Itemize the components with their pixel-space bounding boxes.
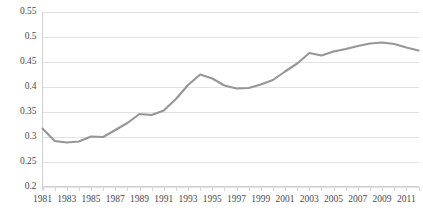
x-tick-label: 1989 [130, 194, 149, 204]
y-tick-label: 0.5 [25, 31, 37, 41]
data-series-line [43, 43, 419, 143]
y-tick-label: 0.3 [25, 131, 37, 141]
x-tick-label: 2007 [348, 194, 367, 204]
x-tick-label: 2009 [373, 194, 392, 204]
y-tick-label: 0.4 [25, 81, 37, 91]
y-tick-label: 0.2 [25, 181, 37, 191]
gridlines [43, 13, 419, 188]
line-chart: 0.20.250.30.350.40.450.50.55 19811983198… [0, 0, 423, 224]
x-tick-label: 2011 [397, 194, 416, 204]
x-tick-label: 2001 [276, 194, 295, 204]
x-tick-label: 1987 [106, 194, 125, 204]
y-tick-label: 0.35 [20, 106, 37, 116]
data-series-group [43, 43, 419, 143]
x-tick-label: 1983 [57, 194, 76, 204]
chart-canvas: 0.20.250.30.350.40.450.50.55 19811983198… [0, 0, 423, 224]
x-tick-label: 1999 [251, 194, 270, 204]
x-tick-label: 2003 [300, 194, 319, 204]
x-tick-label: 1995 [203, 194, 222, 204]
x-tick-label: 1981 [33, 194, 52, 204]
x-tick-label: 1991 [154, 194, 173, 204]
x-tick-label: 2005 [324, 194, 343, 204]
y-tick-label: 0.25 [20, 156, 37, 166]
x-tick-label: 1993 [179, 194, 198, 204]
x-tick-label: 1985 [82, 194, 101, 204]
x-axis-tick-labels: 1981198319851987198919911993199519971999… [33, 194, 416, 204]
y-tick-label: 0.55 [20, 6, 37, 16]
x-tick-label: 1997 [227, 194, 246, 204]
y-tick-label: 0.45 [20, 56, 37, 66]
y-axis-tick-labels: 0.20.250.30.350.40.450.50.55 [20, 6, 37, 191]
